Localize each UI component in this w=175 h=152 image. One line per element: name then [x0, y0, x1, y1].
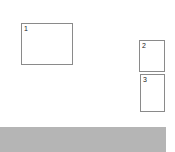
bottom-bar	[0, 127, 166, 152]
frame-3-label: 3	[143, 76, 147, 84]
frame-2-label: 2	[142, 42, 146, 50]
frame-2[interactable]: 2	[139, 40, 165, 72]
frame-1[interactable]: 1	[21, 23, 73, 65]
frame-1-label: 1	[24, 25, 28, 33]
frame-3[interactable]: 3	[140, 74, 165, 112]
